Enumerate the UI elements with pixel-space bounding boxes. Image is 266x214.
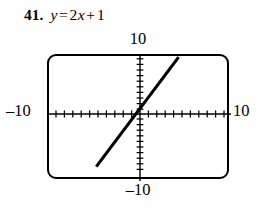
- equation-equals-sign: =: [58, 6, 70, 23]
- equation-variable: x: [78, 6, 85, 23]
- y-axis-max-value: 10: [130, 29, 147, 48]
- y-axis-min-label: –10: [0, 182, 266, 199]
- equation-expression: y=2x+1: [50, 6, 105, 24]
- x-axis-min-label: –10: [6, 103, 31, 120]
- line-graph-curve: [96, 57, 178, 167]
- equation-constant: 1: [97, 6, 105, 23]
- problem-header: 41. y=2x+1: [24, 6, 105, 30]
- calculator-screen: [47, 54, 229, 179]
- equation-coefficient: 2: [70, 6, 78, 23]
- y-axis-min-value: –10: [126, 180, 151, 199]
- x-axis-min-value: –10: [6, 101, 31, 120]
- equation-plus-sign: +: [85, 6, 97, 23]
- graphing-problem: 41. y=2x+1 10: [0, 0, 266, 214]
- x-axis-max-label: 10: [233, 103, 250, 120]
- problem-number: 41.: [24, 6, 43, 24]
- y-axis-max-label: 10: [0, 31, 266, 48]
- x-axis-max-value: 10: [233, 101, 250, 120]
- plot-area: [49, 56, 231, 181]
- graph-svg: [49, 56, 231, 181]
- equation-lhs-variable: y: [50, 6, 57, 23]
